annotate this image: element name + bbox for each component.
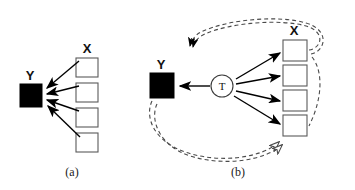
panel-b-x-label: X	[290, 23, 299, 38]
panel-b-arrow-t-to-x3	[236, 91, 280, 101]
panel-a-y-label: Y	[26, 68, 35, 83]
panel-b-bottom-feedback-loop	[150, 101, 279, 158]
panel-b-y-node	[150, 73, 174, 98]
panel-a-x-label: X	[83, 41, 92, 56]
panel-b-arrow-t-to-x2	[236, 76, 280, 84]
panel-b-caption: (b)	[231, 165, 245, 179]
panel-a-arrow-x4-to-y	[48, 106, 80, 137]
panel-b-x-box-1	[283, 40, 307, 61]
figure-root: Y X (a) Y T X	[0, 0, 355, 190]
panel-a-y-node	[20, 84, 42, 107]
panel-b-arrow-t-to-x4	[234, 96, 280, 124]
panel-a-x-box-2	[76, 83, 98, 102]
panel-a-x-box-1	[76, 58, 98, 77]
panel-a-x-box-3	[76, 108, 98, 127]
panel-b-y-label: Y	[157, 57, 166, 72]
panel-a: Y X (a)	[20, 41, 98, 179]
panel-a-arrow-x2-to-y	[47, 86, 79, 94]
panel-b-t-label: T	[219, 80, 226, 92]
panel-b-x-box-4	[283, 115, 307, 136]
panel-b-x-box-3	[283, 90, 307, 111]
panel-b-bottom-feedback-loop-2	[155, 104, 282, 161]
panel-b-right-dashed-connector	[309, 57, 320, 126]
panel-b-x-box-2	[283, 65, 307, 86]
diagram-canvas: Y X (a) Y T X	[0, 0, 355, 190]
panel-b-arrow-t-to-x1	[236, 53, 280, 79]
panel-a-caption: (a)	[65, 165, 78, 179]
panel-b: Y T X	[150, 19, 324, 179]
panel-a-arrow-x1-to-y	[47, 61, 79, 88]
